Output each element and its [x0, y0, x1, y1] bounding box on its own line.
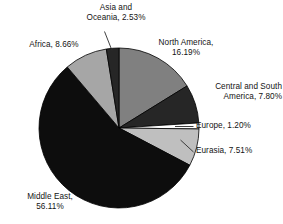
slice-label-asia-and-oceania: Asia and Oceania, 2.53%	[60, 3, 172, 23]
pie-slices	[39, 48, 199, 208]
leader-line-asia-and-oceania	[105, 32, 113, 51]
slice-label-central-and-south-america: Central and South America, 7.80%	[186, 82, 282, 102]
slice-label-africa: Africa, 8.66%	[8, 40, 100, 50]
slice-label-north-america: North America, 16.19%	[140, 38, 232, 58]
pie-graphic	[0, 0, 283, 224]
slice-label-eurasia: Eurasia, 7.51%	[196, 146, 282, 156]
pie-chart: Asia and Oceania, 2.53% North America, 1…	[0, 0, 283, 224]
slice-label-europe: Europe, 1.20%	[196, 121, 282, 131]
slice-label-middle-east: Middle East, 56.11%	[4, 192, 96, 212]
